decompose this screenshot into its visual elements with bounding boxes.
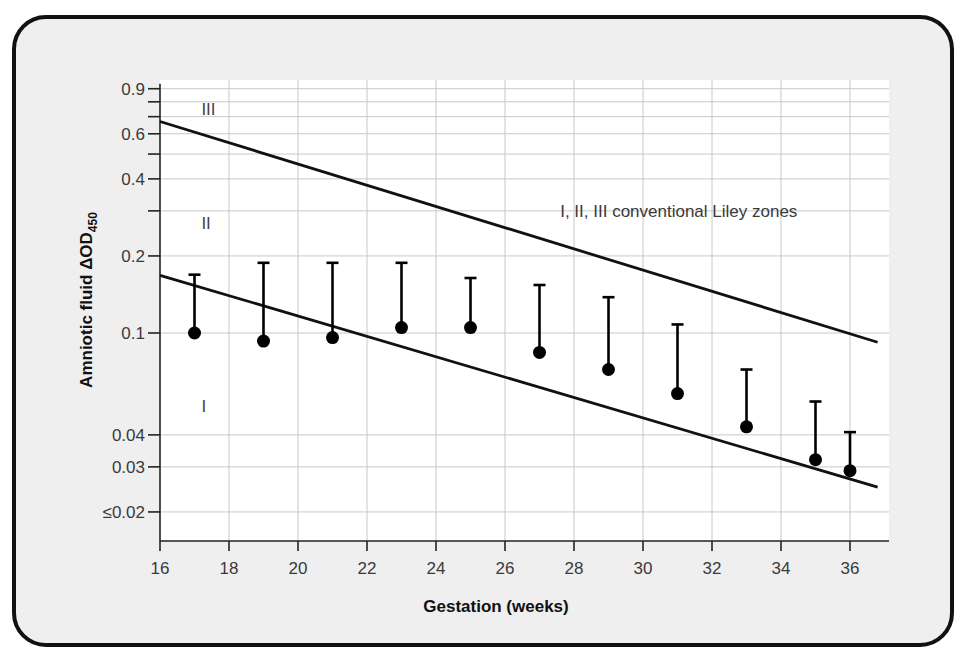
- x-tick-label: 30: [634, 559, 653, 578]
- data-point: [671, 387, 684, 400]
- legend-annotation: I, II, III conventional Liley zones: [560, 202, 797, 221]
- plot-area: [160, 80, 889, 541]
- y-tick-label: 0.1: [121, 324, 145, 343]
- x-tick-label: 32: [703, 559, 722, 578]
- y-tick-label: 0.03: [112, 458, 145, 477]
- data-point: [257, 335, 270, 348]
- x-tick-label: 36: [841, 559, 860, 578]
- x-tick-label: 28: [565, 559, 584, 578]
- data-point: [844, 464, 857, 477]
- data-point: [740, 420, 753, 433]
- x-tick-label: 22: [358, 559, 377, 578]
- data-point: [326, 331, 339, 344]
- y-tick-label: 0.2: [121, 247, 145, 266]
- data-point: [188, 327, 201, 340]
- zone-label: I: [201, 397, 206, 416]
- data-point: [602, 363, 615, 376]
- x-tick-label: 20: [289, 559, 308, 578]
- y-tick-label: 0.4: [121, 170, 145, 189]
- liley-chart: 16182022242628303234360.90.60.40.20.10.0…: [0, 0, 966, 661]
- data-point: [809, 453, 822, 466]
- y-axis-title: Amniotic fluid ΔOD450: [77, 212, 100, 388]
- y-tick-label: ≤0.02: [103, 503, 145, 522]
- x-tick-label: 24: [427, 559, 446, 578]
- y-tick-label: 0.04: [112, 426, 145, 445]
- x-tick-label: 34: [772, 559, 791, 578]
- data-point: [533, 346, 546, 359]
- data-point: [464, 321, 477, 334]
- data-point: [395, 321, 408, 334]
- x-tick-label: 18: [220, 559, 239, 578]
- x-tick-label: 26: [496, 559, 515, 578]
- y-tick-label: 0.9: [121, 80, 145, 99]
- zone-label: II: [201, 214, 210, 233]
- y-tick-label: 0.6: [121, 125, 145, 144]
- zone-label: III: [201, 100, 215, 119]
- x-tick-label: 16: [151, 559, 170, 578]
- x-axis-title: Gestation (weeks): [423, 597, 569, 616]
